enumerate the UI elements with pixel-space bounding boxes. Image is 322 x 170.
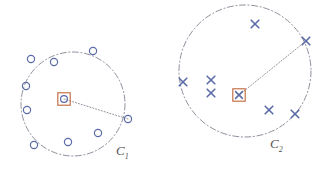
data-point-C2-0 — [251, 20, 259, 28]
cluster-group-C2 — [179, 5, 311, 137]
cluster-group-C1 — [21, 47, 132, 156]
cluster-label-c2: C2 — [270, 137, 283, 154]
cluster-label-text: C — [270, 136, 279, 151]
draw-layer — [21, 5, 311, 156]
data-point-C1-6 — [94, 129, 101, 136]
data-point-C2-3 — [207, 76, 215, 84]
cluster-label-subscript: 2 — [279, 145, 283, 154]
data-point-C2-2 — [179, 78, 187, 86]
data-point-C1-2 — [89, 47, 96, 54]
data-point-C1-7 — [64, 138, 71, 145]
cluster-figure: C1 C2 — [0, 0, 322, 170]
data-point-C1-8 — [30, 141, 37, 148]
radius-line-C2 — [239, 41, 306, 95]
cluster-label-text: C — [116, 143, 125, 158]
data-point-C1-4 — [23, 106, 30, 113]
cluster-boundary-C1 — [21, 52, 125, 156]
data-point-C1-3 — [22, 82, 29, 89]
cluster-label-subscript: 1 — [125, 152, 129, 161]
data-point-C2-5 — [265, 106, 273, 114]
radius-line-C1 — [64, 99, 128, 119]
data-point-C2-6 — [291, 110, 299, 118]
data-point-C1-0 — [27, 55, 34, 62]
cluster-label-c1: C1 — [116, 144, 129, 161]
data-point-C1-1 — [50, 58, 57, 65]
data-point-C2-4 — [207, 89, 215, 97]
